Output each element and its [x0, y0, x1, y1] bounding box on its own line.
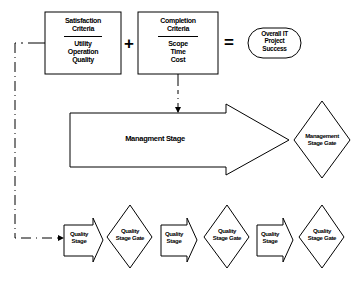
- overall-success-text: Overall IT Project Success: [248, 30, 301, 52]
- quality-stage-label-1: Quality Stage: [64, 231, 94, 245]
- quality-stage-label-3: Quality Stage: [256, 231, 284, 245]
- satisfaction-item-utility: Utility: [45, 40, 121, 48]
- outcome-line3: Success: [248, 45, 301, 52]
- management-stage-label: Managment Stage: [110, 135, 200, 144]
- quality-gate-1-line2: Stage Gate: [105, 235, 155, 242]
- completion-item-scope: Scope: [138, 40, 218, 48]
- completion-criteria-text: Completion Criteria Scope Time Cost: [138, 17, 218, 64]
- satisfaction-item-operation: Operation: [45, 48, 121, 56]
- satisfaction-criteria-text: Satisfaction Criteria Utility Operation …: [45, 17, 121, 64]
- quality-gate-3-line2: Stage Gate: [297, 235, 347, 242]
- quality-stage-2-line1: Quality: [160, 231, 188, 238]
- quality-gate-1-line1: Quality: [105, 228, 155, 235]
- quality-gate-label-1: Quality Stage Gate: [105, 228, 155, 242]
- satisfaction-item-quality: Quality: [45, 56, 121, 64]
- satisfaction-divider: [64, 36, 102, 37]
- quality-stage-1-line2: Stage: [64, 238, 94, 245]
- equals-operator: =: [224, 34, 234, 51]
- completion-title-line2: Criteria: [138, 25, 218, 33]
- completion-item-time: Time: [138, 48, 218, 56]
- quality-stage-3-line2: Stage: [256, 238, 284, 245]
- quality-gate-3-line1: Quality: [297, 228, 347, 235]
- management-gate-line1: Management: [296, 133, 348, 140]
- completion-title-line1: Completion: [138, 17, 218, 25]
- completion-divider: [158, 36, 198, 37]
- management-gate-label: Management Stage Gate: [296, 133, 348, 147]
- plus-operator: +: [124, 35, 134, 52]
- management-gate-line2: Stage Gate: [296, 140, 348, 147]
- quality-stage-2-line2: Stage: [160, 238, 188, 245]
- satisfaction-title-line1: Satisfaction: [45, 17, 121, 25]
- quality-stage-label-2: Quality Stage: [160, 231, 188, 245]
- quality-stage-3-line1: Quality: [256, 231, 284, 238]
- outcome-line1: Overall IT: [248, 30, 301, 37]
- quality-gate-2-line2: Stage Gate: [202, 235, 252, 242]
- satisfaction-title-line2: Criteria: [45, 25, 121, 33]
- outcome-line2: Project: [248, 37, 301, 44]
- quality-gate-label-2: Quality Stage Gate: [202, 228, 252, 242]
- quality-gate-label-3: Quality Stage Gate: [297, 228, 347, 242]
- quality-gate-2-line1: Quality: [202, 228, 252, 235]
- quality-stage-1-line1: Quality: [64, 231, 94, 238]
- completion-item-cost: Cost: [138, 56, 218, 64]
